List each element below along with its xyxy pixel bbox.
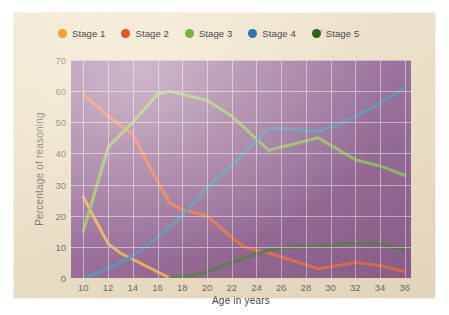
gridline-vertical [158, 60, 159, 278]
y-axis-tick-label: 10 [55, 241, 66, 252]
x-axis-tick-label: 26 [276, 282, 287, 293]
legend-label: Stage 4 [262, 28, 295, 39]
legend-dot-icon [185, 29, 194, 38]
gridline-vertical [232, 60, 233, 278]
x-axis-tick-label: 14 [128, 282, 139, 293]
gridline-vertical [256, 60, 257, 278]
series-line-stage-3 [83, 91, 404, 231]
x-axis-title: Age in years [71, 295, 411, 306]
x-axis-tick-label: 32 [350, 282, 361, 293]
legend-dot-icon [248, 29, 257, 38]
y-axis-tick-label: 40 [55, 148, 66, 159]
legend-dot-icon [121, 29, 130, 38]
gridline-horizontal [71, 153, 411, 154]
y-axis-tick-label: 0 [61, 273, 66, 284]
legend-dot-icon [58, 29, 67, 38]
x-axis-tick-label: 10 [78, 282, 89, 293]
plot-area [71, 60, 411, 278]
gridline-vertical [83, 60, 84, 278]
legend-item-stage-1[interactable]: Stage 1 [58, 28, 105, 39]
y-axis-title: Percentage of reasoning [32, 60, 46, 278]
y-axis-tick-label: 60 [55, 86, 66, 97]
y-axis-tick-label: 20 [55, 210, 66, 221]
gridline-vertical [182, 60, 183, 278]
plot-wrapper: 1012141618202224262830323436010203040506… [71, 60, 411, 278]
y-axis-tick-label: 30 [55, 179, 66, 190]
gridline-vertical [380, 60, 381, 278]
legend-item-stage-2[interactable]: Stage 2 [121, 28, 168, 39]
gridline-horizontal [71, 122, 411, 123]
chart-legend: Stage 1Stage 2Stage 3Stage 4Stage 5 [58, 25, 398, 42]
series-line-stage-4 [83, 88, 404, 278]
gridline-vertical [331, 60, 332, 278]
gridline-horizontal [71, 247, 411, 248]
x-axis-tick-label: 24 [251, 282, 262, 293]
y-axis-tick-label: 70 [55, 55, 66, 66]
gridline-vertical [355, 60, 356, 278]
y-axis-tick-label: 50 [55, 117, 66, 128]
series-lines [71, 60, 411, 278]
legend-label: Stage 2 [135, 28, 168, 39]
series-line-stage-5 [170, 244, 405, 278]
gridline-vertical [405, 60, 406, 278]
gridline-horizontal [71, 91, 411, 92]
gridline-vertical [281, 60, 282, 278]
gridline-vertical [306, 60, 307, 278]
x-axis-tick-label: 28 [301, 282, 312, 293]
legend-item-stage-3[interactable]: Stage 3 [185, 28, 232, 39]
x-axis-tick-label: 12 [103, 282, 114, 293]
legend-dot-icon [312, 29, 321, 38]
x-axis-tick-label: 20 [202, 282, 213, 293]
x-axis-tick-label: 36 [400, 282, 411, 293]
legend-label: Stage 3 [199, 28, 232, 39]
legend-item-stage-5[interactable]: Stage 5 [312, 28, 359, 39]
gridline-horizontal [71, 216, 411, 217]
gridline-horizontal [71, 185, 411, 186]
x-axis-tick-label: 30 [325, 282, 336, 293]
x-axis-tick-label: 16 [152, 282, 163, 293]
gridline-vertical [133, 60, 134, 278]
legend-item-stage-4[interactable]: Stage 4 [248, 28, 295, 39]
legend-label: Stage 1 [72, 28, 105, 39]
x-axis-tick-label: 22 [226, 282, 237, 293]
x-axis-tick-label: 18 [177, 282, 188, 293]
gridline-vertical [108, 60, 109, 278]
gridline-vertical [207, 60, 208, 278]
legend-label: Stage 5 [326, 28, 359, 39]
gridline-horizontal [71, 60, 411, 61]
x-axis-tick-label: 34 [375, 282, 386, 293]
chart-paper-panel: Stage 1Stage 2Stage 3Stage 4Stage 5 Perc… [14, 13, 435, 298]
chart-figure: Stage 1Stage 2Stage 3Stage 4Stage 5 Perc… [0, 0, 449, 315]
